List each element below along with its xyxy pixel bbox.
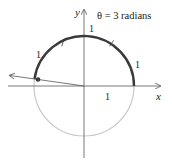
unit-circle-diagram: y x θ = 3 radians 1 1 1 1 [0,0,172,161]
radius-label: 1 [105,91,110,102]
terminal-ray [10,76,84,87]
title-label: θ = 3 radians [97,10,151,21]
x-axis-label: x [155,90,161,102]
arc-label-left: 1 [36,49,41,60]
y-axis-label: y [74,6,80,18]
arc-label-right: 1 [135,59,140,70]
arc-label-top: 1 [89,23,94,34]
terminal-point [36,77,41,82]
